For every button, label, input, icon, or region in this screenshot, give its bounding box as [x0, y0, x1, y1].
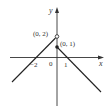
- y-axis-label: y: [48, 6, 53, 15]
- point-label-0-1: (0, 1): [60, 40, 76, 48]
- open-point-icon: [55, 35, 59, 39]
- tick-label-neg2: −2: [30, 61, 38, 69]
- right-line: [57, 47, 101, 92]
- graph: y x 0 −2 1 (0, 2) (0, 1): [0, 0, 111, 109]
- y-axis-arrow-icon: [55, 7, 59, 13]
- closed-point-icon: [55, 45, 59, 49]
- tick-label-1: 1: [64, 61, 68, 69]
- x-axis-label: x: [98, 59, 103, 68]
- origin-label: 0: [49, 60, 53, 68]
- point-label-0-2: (0, 2): [33, 30, 49, 38]
